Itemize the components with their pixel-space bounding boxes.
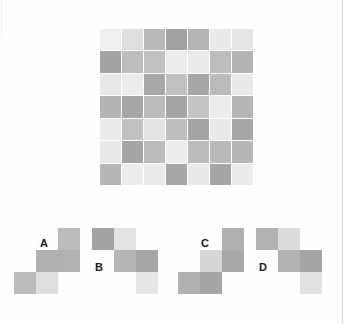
puzzle-page: A B C D (0, 0, 347, 324)
option-cell (178, 272, 200, 294)
grid-cell (144, 51, 165, 73)
grid-cell (144, 141, 165, 163)
grid-cell (100, 74, 121, 96)
option-cell (14, 272, 36, 294)
grid-cell (188, 164, 209, 186)
grid-cell (122, 119, 143, 141)
grid-cell (100, 119, 121, 141)
answer-option-d[interactable]: D (256, 228, 328, 298)
grid-cell (100, 164, 121, 186)
answer-option-c[interactable]: C (178, 228, 250, 298)
grid-cell (100, 141, 121, 163)
grid-cell (232, 51, 253, 73)
option-cell (136, 272, 158, 294)
answer-option-a-grid (14, 228, 86, 298)
grid-cell (166, 74, 187, 96)
grid-cell (188, 96, 209, 118)
grid-cell (188, 141, 209, 163)
page-border-left (1, 0, 2, 36)
option-cell (222, 250, 244, 272)
option-cell (36, 272, 58, 294)
grid-cell (232, 29, 253, 51)
grid-cell (232, 164, 253, 186)
option-cell (114, 250, 136, 272)
page-border-right (342, 0, 343, 324)
grid-cell (232, 74, 253, 96)
answer-option-b-label: B (95, 262, 103, 273)
answer-option-a-label: A (40, 238, 48, 249)
grid-cell (188, 29, 209, 51)
option-cell (114, 228, 136, 250)
grid-cell (210, 74, 231, 96)
grid-cell (210, 141, 231, 163)
grid-cell (210, 29, 231, 51)
grid-cell (210, 164, 231, 186)
grid-cell (232, 119, 253, 141)
grid-cell (166, 119, 187, 141)
option-cell (58, 228, 80, 250)
answer-option-c-grid (178, 228, 250, 298)
grid-cell (144, 164, 165, 186)
grid-cell (144, 119, 165, 141)
grid-cell (144, 29, 165, 51)
grid-cell (100, 51, 121, 73)
grid-cell (122, 29, 143, 51)
option-cell (222, 228, 244, 250)
grid-cell (166, 51, 187, 73)
option-cell (200, 272, 222, 294)
option-cell (58, 250, 80, 272)
option-cell (278, 250, 300, 272)
grid-cell (144, 96, 165, 118)
grid-cell (188, 51, 209, 73)
answer-option-c-label: C (201, 238, 209, 249)
grid-cell (232, 141, 253, 163)
grid-cell (188, 74, 209, 96)
option-cell (300, 272, 322, 294)
option-cell (256, 228, 278, 250)
pattern-grid (99, 28, 253, 186)
option-cell (300, 250, 322, 272)
grid-cell (122, 74, 143, 96)
answer-option-b[interactable]: B (92, 228, 164, 298)
option-cell (92, 228, 114, 250)
grid-cell (232, 96, 253, 118)
grid-cell (166, 141, 187, 163)
grid-cell (100, 29, 121, 51)
grid-cell (166, 96, 187, 118)
grid-cell (166, 29, 187, 51)
grid-cell (122, 51, 143, 73)
option-cell (278, 228, 300, 250)
grid-cell (188, 119, 209, 141)
option-cell (36, 250, 58, 272)
grid-cell (166, 164, 187, 186)
option-cell (136, 250, 158, 272)
grid-cell (122, 96, 143, 118)
grid-cell (122, 164, 143, 186)
grid-cell (210, 119, 231, 141)
answer-option-d-label: D (259, 262, 267, 273)
grid-cell (122, 141, 143, 163)
answer-option-a[interactable]: A (14, 228, 86, 298)
option-cell (200, 250, 222, 272)
grid-cell (210, 51, 231, 73)
grid-cell (210, 96, 231, 118)
grid-cell (144, 74, 165, 96)
grid-cell (100, 96, 121, 118)
